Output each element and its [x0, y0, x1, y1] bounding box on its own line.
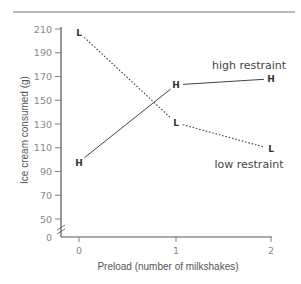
x-axis-title: Preload (number of milkshakes) [97, 261, 238, 272]
line-chart: 0507090110130150170190210 012 Ice cream … [0, 0, 301, 284]
y-tick-label: 70 [40, 190, 52, 201]
y-tick-label: 90 [40, 166, 52, 177]
y-tick-label: 50 [40, 214, 52, 225]
data-marker: H [267, 74, 275, 84]
y-tick-label: 190 [34, 47, 52, 58]
y-tick-label: 110 [34, 142, 52, 153]
series-label-low-restraint: low restraint [215, 158, 285, 171]
series-label-high-restraint: high restraint [212, 59, 287, 72]
data-marker: H [172, 80, 180, 90]
data-marker: L [268, 144, 274, 154]
series-low-restraint: LLL [76, 28, 274, 154]
x-tick-label: 1 [173, 245, 179, 256]
y-axis-title: Ice cream consumed (g) [19, 76, 30, 184]
y-tick-label: 210 [34, 24, 52, 35]
data-marker: L [76, 28, 82, 38]
data-marker: H [75, 158, 83, 168]
data-marker: L [173, 118, 179, 128]
y-tick-label: 170 [34, 71, 52, 82]
x-axis-ticks: 012 [76, 237, 274, 256]
x-tick-label: 2 [268, 245, 274, 256]
y-axis-ticks: 0507090110130150170190210 [34, 24, 61, 243]
x-tick-label: 0 [76, 245, 82, 256]
y-tick-label: 130 [34, 119, 52, 130]
y-tick-label: 0 [46, 232, 52, 243]
series-group: HHHLLL [75, 28, 275, 167]
y-tick-label: 150 [34, 95, 52, 106]
